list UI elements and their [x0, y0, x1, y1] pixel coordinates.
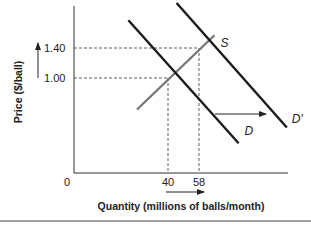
y-axis-label: Price ($/ball) [12, 61, 24, 123]
x-tick-label: 58 [193, 176, 205, 188]
y-tick-label: 1.00 [44, 72, 65, 84]
x-tick-label: 40 [162, 176, 174, 188]
curve-d-prime [177, 3, 287, 128]
curve-label-s: S [221, 36, 229, 50]
x-axis-label: Quantity (millions of balls/month) [98, 200, 265, 212]
origin-label: 0 [64, 176, 70, 188]
curve-label-d-prime: D' [292, 112, 304, 126]
y-tick-label: 1.40 [44, 42, 65, 54]
supply-demand-chart: SDD' 0 1.001.40 4058 Price ($/ball) Quan… [0, 0, 311, 228]
curve-label-d: D [245, 124, 254, 138]
